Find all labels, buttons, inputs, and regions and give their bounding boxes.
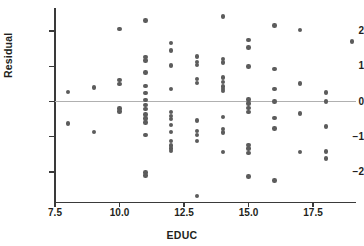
- data-point: [195, 194, 199, 198]
- data-point: [324, 90, 328, 94]
- data-point: [324, 124, 328, 128]
- data-point: [272, 116, 276, 120]
- data-point: [350, 39, 354, 43]
- data-point: [221, 130, 225, 134]
- data-point: [221, 89, 225, 93]
- data-point: [169, 149, 173, 153]
- data-point: [143, 173, 147, 177]
- data-point: [324, 99, 328, 103]
- data-point: [298, 28, 302, 32]
- data-point: [143, 58, 147, 62]
- data-point: [246, 38, 250, 42]
- data-point: [92, 85, 96, 89]
- data-point: [66, 121, 70, 125]
- data-point: [195, 139, 199, 143]
- data-point: [272, 99, 276, 103]
- data-point: [117, 109, 121, 113]
- scatter-plot-figure: 210−1−2 7.510.012.515.017.5 Residual EDU…: [0, 0, 364, 246]
- data-point: [298, 81, 302, 85]
- data-point: [117, 82, 121, 86]
- data-point: [221, 115, 225, 119]
- data-point: [324, 156, 328, 160]
- data-point: [66, 90, 70, 94]
- data-point: [92, 130, 96, 134]
- data-point: [246, 174, 250, 178]
- data-point: [117, 27, 121, 31]
- data-point: [169, 130, 173, 134]
- data-point: [169, 123, 173, 127]
- data-point: [195, 54, 199, 58]
- data-point: [246, 45, 250, 49]
- data-point: [246, 146, 250, 150]
- data-point: [195, 118, 199, 122]
- data-point: [143, 107, 147, 111]
- data-point: [246, 110, 250, 114]
- data-point: [272, 87, 276, 91]
- data-point: [221, 150, 225, 154]
- data-point: [143, 133, 147, 137]
- data-point: [169, 117, 173, 121]
- data-point: [169, 87, 173, 91]
- data-point: [169, 41, 173, 45]
- data-point: [143, 18, 147, 22]
- data-point: [143, 120, 147, 124]
- data-point: [143, 98, 147, 102]
- data-point: [169, 48, 173, 52]
- data-point: [272, 126, 276, 130]
- data-point: [195, 133, 199, 137]
- data-point: [195, 81, 199, 85]
- data-point: [272, 178, 276, 182]
- data-point: [298, 111, 302, 115]
- data-point: [221, 14, 225, 18]
- data-point-layer: [0, 0, 364, 246]
- data-point: [143, 84, 147, 88]
- data-point: [272, 23, 276, 27]
- data-point: [246, 64, 250, 68]
- data-point: [143, 70, 147, 74]
- data-point: [298, 150, 302, 154]
- data-point: [195, 63, 199, 67]
- data-point: [143, 91, 147, 95]
- data-point: [272, 67, 276, 71]
- data-point: [169, 63, 173, 67]
- data-point: [324, 149, 328, 153]
- data-point: [221, 60, 225, 64]
- data-point: [246, 151, 250, 155]
